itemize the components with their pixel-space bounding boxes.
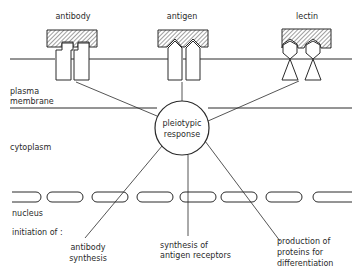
pleiotypic-response-diagram: antibody antigen lectin xyxy=(0,0,363,274)
antibody-receptor-icon xyxy=(56,43,89,80)
label-cytoplasm: cytoplasm xyxy=(10,143,52,152)
center-label-line2: response xyxy=(164,130,200,139)
label-membrane: membrane xyxy=(10,97,54,106)
label-initiation: initiation of : xyxy=(12,228,63,237)
outcome-differentiation: production of proteins for differentiati… xyxy=(277,237,333,268)
svg-text:proteins for: proteins for xyxy=(277,248,324,257)
label-lectin: lectin xyxy=(296,12,318,21)
antigen-ligand xyxy=(158,30,208,47)
outcome-antigen-receptors: synthesis of antigen receptors xyxy=(160,241,231,260)
outcome-antibody-synthesis: antibody synthesis xyxy=(69,243,107,263)
label-plasma: plasma xyxy=(10,87,39,96)
svg-text:production of: production of xyxy=(277,237,330,246)
label-antibody: antibody xyxy=(55,12,90,21)
svg-text:antibody: antibody xyxy=(70,243,105,252)
svg-text:synthesis: synthesis xyxy=(69,254,107,263)
label-nucleus: nucleus xyxy=(12,209,43,218)
center-label-line1: pleiotypic xyxy=(163,119,202,128)
label-antigen: antigen xyxy=(167,12,197,21)
svg-text:antigen receptors: antigen receptors xyxy=(160,251,231,260)
outcome-lines xyxy=(85,141,280,241)
pleiotypic-response-node: pleiotypic response xyxy=(155,101,209,155)
svg-text:differentiation: differentiation xyxy=(277,259,333,268)
nuclear-membrane xyxy=(12,192,352,202)
svg-text:synthesis of: synthesis of xyxy=(160,241,208,250)
